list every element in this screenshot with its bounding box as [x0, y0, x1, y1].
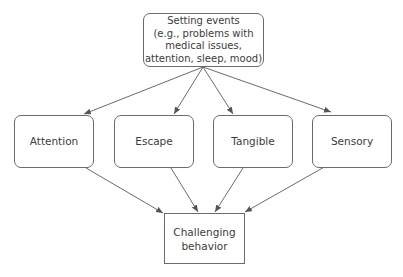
attention-node: Attention	[14, 115, 94, 168]
sensory-node: Sensory	[312, 115, 392, 168]
setting-events-line-1: Setting events	[145, 15, 262, 28]
arrow-tangible-to-behavior	[215, 168, 243, 212]
arrow-setting-to-escape	[174, 67, 203, 114]
escape-label: Escape	[135, 135, 172, 148]
setting-events-line-4: attention, sleep, mood)	[145, 53, 262, 66]
tangible-label: Tangible	[231, 135, 274, 148]
challenging-behavior-line-2: behavior	[173, 239, 235, 253]
arrow-setting-to-attention	[84, 67, 203, 114]
arrow-escape-to-behavior	[171, 168, 198, 212]
setting-events-node: Setting events (e.g., problems with medi…	[143, 13, 264, 67]
setting-events-line-3: medical issues,	[145, 40, 262, 53]
setting-events-line-2: (e.g., problems with	[145, 28, 262, 41]
challenging-behavior-node: Challenging behavior	[164, 213, 245, 264]
sensory-label: Sensory	[331, 135, 373, 148]
tangible-node: Tangible	[213, 115, 293, 168]
challenging-behavior-line-1: Challenging	[173, 225, 235, 239]
attention-label: Attention	[30, 135, 78, 148]
arrow-setting-to-sensory	[203, 67, 331, 112]
arrow-setting-to-tangible	[203, 67, 233, 114]
escape-node: Escape	[114, 115, 194, 168]
arrow-attention-to-behavior	[86, 168, 163, 213]
arrow-sensory-to-behavior	[245, 166, 326, 212]
